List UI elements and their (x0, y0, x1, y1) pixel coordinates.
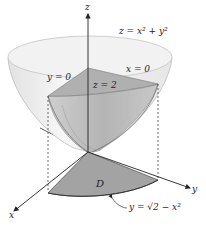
boundary-curve-label: y = √2 − x² (129, 203, 181, 212)
z-axis-label: z (85, 3, 90, 12)
surface-label: z = x² + y² (119, 27, 168, 36)
plane-y0-label: y = 0 (47, 73, 71, 82)
y-axis-label: y (192, 185, 197, 194)
diagram-canvas (0, 0, 206, 231)
plane-x0-label: x = 0 (126, 65, 150, 74)
region-d (48, 152, 158, 196)
x-axis-label: x (9, 211, 14, 220)
paraboloid-diagram: z z = x² + y² y = 0 x = 0 z = 2 D y x y … (0, 0, 206, 231)
region-d-label: D (96, 179, 104, 189)
plane-z2-label: z = 2 (93, 81, 117, 90)
boundary-leader (112, 198, 127, 208)
